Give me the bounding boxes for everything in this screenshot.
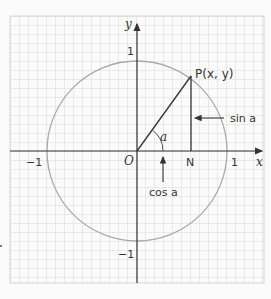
x-tick-1: 1 bbox=[231, 156, 238, 169]
y-tick-neg1: −1 bbox=[118, 248, 134, 261]
cos-label: cos a bbox=[149, 186, 178, 199]
point-N-label: N bbox=[186, 156, 194, 169]
x-tick-neg1: −1 bbox=[26, 156, 42, 169]
point-P-label: P(x, y) bbox=[195, 67, 233, 81]
sin-label: sin a bbox=[230, 112, 256, 125]
y-axis-label: y bbox=[124, 17, 132, 31]
angle-label: a bbox=[160, 130, 167, 144]
stray-dot bbox=[0, 245, 2, 247]
x-axis-label: x bbox=[256, 155, 263, 169]
origin-label: O bbox=[124, 154, 134, 168]
unit-circle-diagram: y x O 1 −1 −1 1 P(x, y) N a sin a cos a bbox=[0, 0, 271, 299]
y-tick-1: 1 bbox=[127, 45, 134, 58]
